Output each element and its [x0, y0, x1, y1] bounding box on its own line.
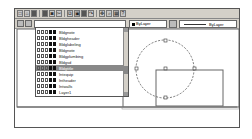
separator — [64, 10, 65, 17]
layer-list-scrollbar[interactable] — [123, 28, 128, 96]
paste-icon[interactable]: ▣ — [74, 10, 80, 17]
color-icon — [53, 30, 56, 34]
layer-name: Intheader — [59, 78, 76, 83]
linetype-button[interactable] — [169, 20, 177, 28]
layer-name: Bldgnote — [59, 48, 75, 53]
undo-icon[interactable] — [81, 10, 87, 17]
copy-icon[interactable]: ⧉ — [67, 10, 73, 17]
freeze-icon[interactable] — [41, 60, 44, 64]
freeze-icon[interactable] — [41, 30, 44, 34]
layer-name: Layer1 — [59, 90, 71, 95]
freeze-icon[interactable] — [41, 84, 44, 88]
layer-name: Intequip — [59, 72, 73, 77]
color-control-dropdown[interactable]: ByLayer — [129, 20, 167, 28]
lock-icon[interactable] — [45, 66, 48, 70]
color-icon — [53, 72, 56, 76]
color-icon — [53, 84, 56, 88]
linetype-control-dropdown[interactable]: ByLayer — [179, 20, 237, 28]
freeze-icon[interactable] — [41, 90, 44, 94]
lock-icon[interactable] — [45, 54, 48, 58]
lock-icon[interactable] — [45, 30, 48, 34]
lock-icon[interactable] — [45, 36, 48, 40]
plot-icon[interactable] — [49, 66, 52, 70]
lock-icon[interactable] — [45, 84, 48, 88]
layer-name: Intwalls — [59, 84, 72, 89]
layer-name: Bldglabeling — [59, 42, 81, 47]
layer-name: Bldgnote — [59, 30, 75, 35]
plot-icon[interactable] — [49, 42, 52, 46]
on-off-icon[interactable] — [37, 48, 40, 52]
freeze-icon[interactable] — [41, 78, 44, 82]
layer-row[interactable]: Layer1 — [36, 89, 124, 95]
redo-icon[interactable]: ↷ — [88, 10, 94, 17]
on-off-icon[interactable] — [37, 72, 40, 76]
on-off-icon[interactable] — [37, 60, 40, 64]
color-swatch — [132, 23, 135, 26]
color-icon — [53, 90, 56, 94]
new-icon[interactable]: □ — [17, 10, 23, 17]
plot-icon[interactable] — [49, 90, 52, 94]
freeze-icon[interactable] — [41, 72, 44, 76]
freeze-icon[interactable] — [41, 42, 44, 46]
plot-icon[interactable] — [49, 36, 52, 40]
plot-icon[interactable] — [49, 60, 52, 64]
color-value: ByLayer — [136, 21, 151, 27]
cad-window: □ ⌂ ◙ ✂ ⧉ ▣ ↷ ✥ ⌕ ▦ ? ByLayer ByLayer — [14, 8, 240, 128]
plot-icon[interactable] — [49, 72, 52, 76]
color-icon — [53, 54, 56, 58]
linetype-preview — [184, 24, 206, 25]
freeze-icon[interactable] — [41, 48, 44, 52]
on-off-icon[interactable] — [37, 66, 40, 70]
lock-icon[interactable] — [45, 90, 48, 94]
on-off-icon[interactable] — [37, 84, 40, 88]
color-icon — [53, 66, 56, 70]
pan-icon[interactable]: ✥ — [99, 10, 105, 17]
separator — [96, 10, 97, 17]
zoom-icon[interactable]: ⌕ — [106, 10, 112, 17]
color-icon — [53, 78, 56, 82]
layer-name: Bldgplumbing — [59, 54, 83, 59]
plot-icon[interactable] — [49, 54, 52, 58]
layer-name: Bldgheader — [59, 36, 79, 41]
layer-previous-icon[interactable] — [25, 20, 32, 27]
plot-icon[interactable] — [49, 78, 52, 82]
color-icon — [53, 48, 56, 52]
color-icon — [53, 42, 56, 46]
layer-name: Bldgsd — [59, 60, 71, 65]
on-off-icon[interactable] — [37, 42, 40, 46]
lock-icon[interactable] — [45, 48, 48, 52]
on-off-icon[interactable] — [37, 90, 40, 94]
layer-name: Bldgtitle — [59, 66, 73, 71]
print-icon[interactable] — [42, 10, 48, 17]
freeze-icon[interactable] — [41, 66, 44, 70]
color-icon — [53, 36, 56, 40]
scroll-thumb[interactable] — [124, 66, 128, 74]
freeze-icon[interactable] — [41, 36, 44, 40]
on-off-icon[interactable] — [37, 54, 40, 58]
separator — [39, 10, 40, 17]
layers-icon[interactable] — [17, 20, 24, 27]
preview-icon[interactable]: ◙ — [49, 10, 55, 17]
scroll-down-arrow-icon[interactable] — [124, 92, 128, 96]
lock-icon[interactable] — [45, 60, 48, 64]
on-off-icon[interactable] — [37, 30, 40, 34]
color-icon — [53, 60, 56, 64]
layer-dropdown-list[interactable]: Bldgnote Bldgheader Bldglabeling Bldgnot… — [35, 27, 129, 97]
help-icon[interactable]: ? — [120, 10, 126, 17]
lock-icon[interactable] — [45, 42, 48, 46]
scroll-up-arrow-icon[interactable] — [124, 28, 128, 32]
standard-toolbar: □ ⌂ ◙ ✂ ⧉ ▣ ↷ ✥ ⌕ ▦ ? — [15, 9, 239, 19]
cut-icon[interactable]: ✂ — [56, 10, 62, 17]
on-off-icon[interactable] — [37, 36, 40, 40]
plot-icon[interactable] — [49, 48, 52, 52]
open-icon[interactable]: ⌂ — [24, 10, 30, 17]
linetype-value: ByLayer — [209, 22, 224, 27]
lock-icon[interactable] — [45, 72, 48, 76]
plot-icon[interactable] — [49, 84, 52, 88]
on-off-icon[interactable] — [37, 78, 40, 82]
freeze-icon[interactable] — [41, 54, 44, 58]
save-icon[interactable] — [31, 10, 37, 17]
lock-icon[interactable] — [45, 78, 48, 82]
properties-icon[interactable]: ▦ — [113, 10, 119, 17]
plot-icon[interactable] — [49, 30, 52, 34]
